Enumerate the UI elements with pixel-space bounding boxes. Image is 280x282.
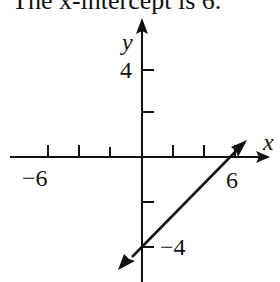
x-axis-label: x — [262, 129, 274, 155]
x-tick-label-6: 6 — [226, 167, 238, 193]
y-axis-label: y — [120, 29, 133, 55]
x-tick-label-neg6: −6 — [22, 165, 48, 191]
y-tick-label-4: 4 — [120, 57, 132, 83]
coordinate-graph: y x −6 6 4 −4 — [0, 0, 280, 282]
x-axis — [10, 145, 270, 163]
y-tick-label-neg4: −4 — [160, 234, 186, 260]
